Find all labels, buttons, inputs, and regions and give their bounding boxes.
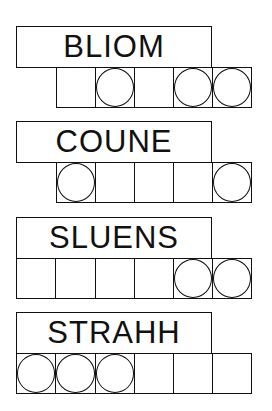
answer-tile[interactable]: [135, 259, 174, 298]
answer-tile[interactable]: [96, 163, 135, 202]
answer-tile-circled[interactable]: [174, 68, 213, 107]
circle-marker-icon: [213, 68, 251, 107]
answer-tile-circled[interactable]: [57, 163, 96, 202]
answer-tile[interactable]: [135, 354, 174, 393]
scrambled-word: SLUENS: [16, 217, 212, 259]
circle-marker-icon: [213, 163, 251, 202]
answer-tiles: [16, 258, 252, 299]
circle-marker-icon: [56, 354, 94, 393]
circle-marker-icon: [96, 68, 134, 107]
answer-tiles: [16, 353, 252, 394]
answer-tile-circled[interactable]: [96, 68, 135, 107]
answer-tiles: [56, 67, 252, 108]
answer-tile-circled[interactable]: [56, 354, 95, 393]
answer-tile[interactable]: [135, 68, 174, 107]
scrambled-word: STRAHH: [16, 312, 212, 354]
circle-marker-icon: [96, 354, 134, 393]
answer-tile-circled[interactable]: [96, 354, 135, 393]
answer-tile-circled[interactable]: [17, 354, 56, 393]
answer-tile-circled[interactable]: [213, 68, 252, 107]
answer-tile-circled[interactable]: [174, 259, 213, 298]
scrambled-word: COUNE: [16, 121, 212, 163]
circle-marker-icon: [57, 163, 95, 202]
circle-marker-icon: [174, 259, 212, 298]
answer-tile[interactable]: [174, 354, 213, 393]
circle-marker-icon: [174, 68, 212, 107]
answer-tile[interactable]: [17, 259, 56, 298]
answer-tile[interactable]: [174, 163, 213, 202]
answer-tile-circled[interactable]: [213, 259, 252, 298]
answer-tile[interactable]: [96, 259, 135, 298]
scrambled-word: BLIOM: [16, 26, 212, 68]
answer-tiles: [56, 162, 252, 203]
answer-tile[interactable]: [56, 259, 95, 298]
answer-tile[interactable]: [213, 354, 252, 393]
circle-marker-icon: [213, 259, 251, 298]
circle-marker-icon: [17, 354, 55, 393]
answer-tile[interactable]: [57, 68, 96, 107]
answer-tile[interactable]: [135, 163, 174, 202]
answer-tile-circled[interactable]: [213, 163, 252, 202]
